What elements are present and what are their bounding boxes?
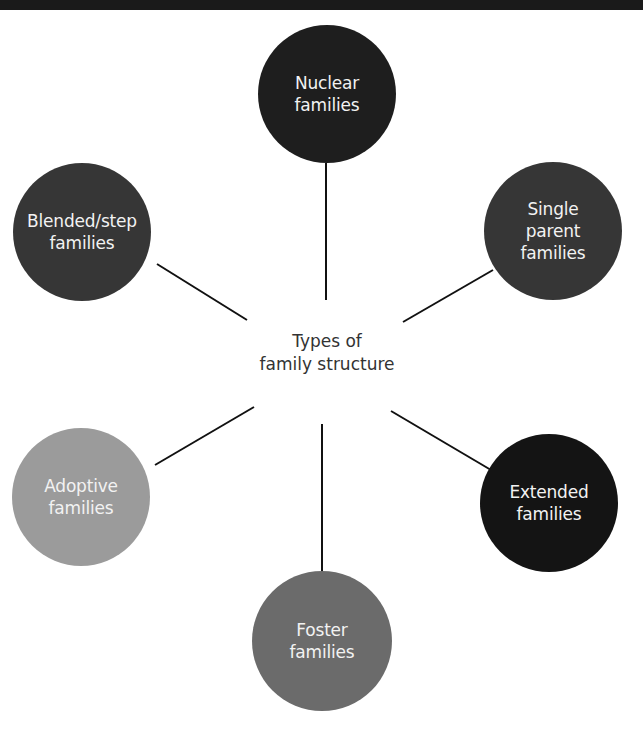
node-adoptive-families: Adoptive families: [12, 428, 150, 566]
node-label: Extended families: [509, 481, 588, 525]
node-nuclear-families: Nuclear families: [258, 25, 396, 163]
node-foster-families: Foster families: [252, 571, 392, 711]
node-label: Single parent families: [521, 198, 586, 264]
node-label: Adoptive families: [44, 475, 118, 519]
node-extended-families: Extended families: [480, 434, 618, 572]
edge-single-parent: [403, 270, 493, 322]
node-label: Blended/step families: [27, 210, 137, 254]
node-label: Nuclear families: [295, 72, 360, 116]
edge-extended: [391, 411, 491, 470]
edge-blended-step: [157, 264, 247, 320]
edge-adoptive: [155, 407, 254, 465]
node-blended-step-families: Blended/step families: [13, 163, 151, 301]
node-label: Foster families: [290, 619, 355, 663]
node-single-parent-families: Single parent families: [484, 162, 622, 300]
center-hub-label: Types of family structure: [232, 330, 422, 376]
